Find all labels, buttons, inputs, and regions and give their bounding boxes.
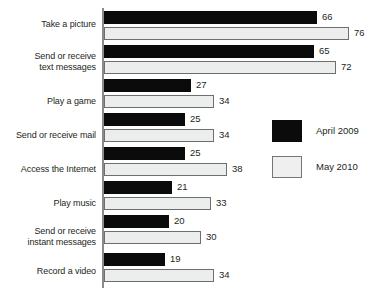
category-label-access-the-internet: Access the Internet xyxy=(0,164,96,175)
bar-series-april-2009 xyxy=(104,11,317,24)
category-label-line: instant messages xyxy=(0,237,96,248)
bar-value-label: 19 xyxy=(170,252,181,266)
category-label-line: Take a picture xyxy=(0,19,96,30)
bar-series-may-2010 xyxy=(104,197,211,210)
category-label-line: text messages xyxy=(0,62,96,73)
category-label-line: Access the Internet xyxy=(0,164,96,175)
legend-item-label: May 2010 xyxy=(316,160,358,173)
bar-series-may-2010 xyxy=(104,163,227,176)
category-label-send-or-receive-instant-messages: Send or receive instant messages xyxy=(0,226,96,248)
bar-value-label: 34 xyxy=(219,94,230,108)
bar-series-may-2010 xyxy=(104,129,214,142)
bar-value-label: 25 xyxy=(190,112,201,126)
category-label-line: Send or receive mail xyxy=(0,130,96,141)
bar-series-may-2010 xyxy=(104,231,201,244)
category-label-send-or-receive-text-messages: Send or receive text messages xyxy=(0,51,96,73)
bar-series-may-2010 xyxy=(104,95,214,108)
legend-swatch-icon xyxy=(272,156,302,178)
category-label-line: Send or receive xyxy=(0,51,96,62)
category-label-line: Play a game xyxy=(0,96,96,107)
bar-value-label: 38 xyxy=(232,162,243,176)
bar-value-label: 27 xyxy=(196,78,207,92)
bar-chart: Take a picture Send or receive text mess… xyxy=(0,0,388,296)
bar-value-label: 34 xyxy=(219,128,230,142)
bar-series-april-2009 xyxy=(104,45,314,58)
plot-area: 66 76 65 72 27 xyxy=(102,8,386,288)
bar-value-label: 33 xyxy=(216,196,227,210)
bar-series-may-2010 xyxy=(104,61,336,74)
legend-swatch-icon xyxy=(272,120,302,142)
legend-item-label: April 2009 xyxy=(316,124,359,137)
bar-series-april-2009 xyxy=(104,215,169,228)
bar-series-may-2010 xyxy=(104,27,349,40)
category-label-line: Send or receive xyxy=(0,226,96,237)
bar-value-label: 20 xyxy=(174,214,185,228)
category-label-play-a-game: Play a game xyxy=(0,96,96,107)
bar-series-april-2009 xyxy=(104,253,165,266)
category-label-line: Record a video xyxy=(0,266,96,277)
category-label-send-or-receive-mail: Send or receive mail xyxy=(0,130,96,141)
bar-series-april-2009 xyxy=(104,113,185,126)
category-label-take-a-picture: Take a picture xyxy=(0,19,96,30)
category-label-play-music: Play music xyxy=(0,198,96,209)
bar-value-label: 30 xyxy=(206,230,217,244)
bar-value-label: 76 xyxy=(354,26,365,40)
category-axis-labels: Take a picture Send or receive text mess… xyxy=(0,8,96,288)
bar-value-label: 72 xyxy=(341,60,352,74)
bar-series-april-2009 xyxy=(104,79,191,92)
bar-series-april-2009 xyxy=(104,147,185,160)
bar-value-label: 65 xyxy=(319,44,330,58)
bar-value-label: 66 xyxy=(322,10,333,24)
bar-value-label: 34 xyxy=(219,268,230,282)
bar-series-april-2009 xyxy=(104,181,172,194)
bar-series-may-2010 xyxy=(104,269,214,282)
bar-value-label: 25 xyxy=(190,146,201,160)
category-label-line: Play music xyxy=(0,198,96,209)
category-label-record-a-video: Record a video xyxy=(0,266,96,277)
bar-value-label: 21 xyxy=(177,180,188,194)
